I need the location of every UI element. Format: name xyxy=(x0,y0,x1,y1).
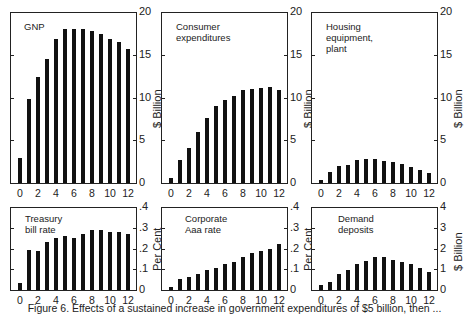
y-tick-label: 10 xyxy=(440,92,452,103)
bar xyxy=(259,88,263,183)
y-tick xyxy=(133,140,137,141)
x-tick-label: 4 xyxy=(48,188,64,199)
y-tick xyxy=(161,290,165,291)
bar xyxy=(205,118,209,183)
x-tick-label: 6 xyxy=(66,188,82,199)
y-tick xyxy=(133,228,137,229)
y-tick-label: .4 xyxy=(290,201,299,212)
y-tick xyxy=(161,55,165,56)
bar xyxy=(126,234,130,290)
bar xyxy=(45,59,49,183)
y-tick xyxy=(10,98,14,99)
y-tick xyxy=(311,12,315,13)
bar xyxy=(54,238,58,290)
x-tick-label: 0 xyxy=(313,188,329,199)
y-tick-label: 15 xyxy=(139,49,151,60)
bar xyxy=(382,257,386,290)
panel-title: Corporate Aaa rate xyxy=(185,213,227,235)
y-tick-label: 5 xyxy=(440,134,446,145)
bar xyxy=(223,100,227,183)
x-tick-label: 12 xyxy=(120,188,136,199)
y-tick xyxy=(311,207,315,208)
x-tick-label: 6 xyxy=(217,188,233,199)
x-tick-label: 10 xyxy=(102,188,118,199)
bar xyxy=(90,31,94,183)
bar xyxy=(27,250,31,290)
bar xyxy=(27,99,31,183)
y-tick xyxy=(434,249,438,250)
y-tick xyxy=(284,140,288,141)
bar xyxy=(400,262,404,290)
y-tick-label: 0 xyxy=(440,284,446,295)
y-tick xyxy=(133,290,137,291)
y-tick-label: 5 xyxy=(139,134,145,145)
y-tick xyxy=(434,12,438,13)
x-tick-label: 2 xyxy=(30,188,46,199)
x-tick-label: 6 xyxy=(367,188,383,199)
y-tick xyxy=(133,55,137,56)
y-tick-label: 2 xyxy=(440,243,446,254)
y-tick xyxy=(133,183,137,184)
bar xyxy=(250,253,254,290)
x-tick-label: 2 xyxy=(181,188,197,199)
x-tick-label: 4 xyxy=(349,188,365,199)
y-tick xyxy=(133,12,137,13)
x-tick-label: 8 xyxy=(84,188,100,199)
y-tick xyxy=(133,98,137,99)
y-tick-label: 20 xyxy=(139,6,151,17)
y-axis-title: $ Billion xyxy=(452,89,464,128)
bar xyxy=(355,160,359,183)
bar xyxy=(36,251,40,290)
x-tick-label: 10 xyxy=(253,188,269,199)
bar xyxy=(169,178,173,183)
x-tick-label: 2 xyxy=(331,188,347,199)
y-tick xyxy=(311,55,315,56)
bar xyxy=(187,148,191,183)
x-tick-label: 12 xyxy=(271,188,287,199)
bar xyxy=(346,165,350,183)
y-tick-label: .3 xyxy=(290,222,299,233)
y-tick xyxy=(434,55,438,56)
y-tick-label: 0 xyxy=(440,177,446,188)
x-tick-label: 0 xyxy=(12,188,28,199)
y-tick-label: .2 xyxy=(290,243,299,254)
y-tick xyxy=(311,140,315,141)
y-tick-label: 0 xyxy=(290,284,296,295)
y-tick xyxy=(10,207,14,208)
y-tick xyxy=(161,183,165,184)
x-tick-label: 10 xyxy=(403,188,419,199)
y-tick xyxy=(311,228,315,229)
bar xyxy=(187,277,191,290)
bar xyxy=(382,161,386,183)
bar xyxy=(45,242,49,290)
y-tick xyxy=(434,269,438,270)
bar xyxy=(72,29,76,183)
panel-title: Treasury bill rate xyxy=(25,213,62,235)
y-tick xyxy=(284,207,288,208)
bar xyxy=(18,283,22,290)
y-tick-label: 20 xyxy=(440,6,452,17)
bar xyxy=(328,172,332,183)
y-tick xyxy=(434,228,438,229)
y-tick-label: 10 xyxy=(139,92,151,103)
bar xyxy=(277,90,281,183)
panel-title: Consumer expenditures xyxy=(176,21,230,43)
y-tick xyxy=(311,290,315,291)
bar xyxy=(268,87,272,183)
y-tick-label: .1 xyxy=(290,263,299,274)
y-tick-label: 5 xyxy=(290,134,296,145)
bar xyxy=(391,162,395,183)
y-tick-label: .3 xyxy=(139,222,148,233)
bar xyxy=(108,232,112,290)
y-tick xyxy=(284,183,288,184)
y-tick xyxy=(161,228,165,229)
y-tick xyxy=(133,269,137,270)
bar xyxy=(117,232,121,290)
y-tick-label: 15 xyxy=(440,49,452,60)
panel-title: GNP xyxy=(24,21,45,32)
bar xyxy=(427,173,431,183)
y-tick xyxy=(10,55,14,56)
y-tick-label: 3 xyxy=(440,222,446,233)
y-tick xyxy=(434,98,438,99)
y-tick xyxy=(434,207,438,208)
